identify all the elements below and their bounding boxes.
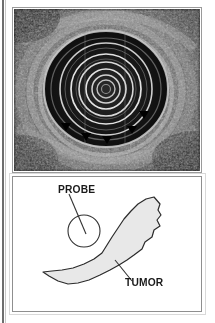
schematic-panel-frame bbox=[12, 176, 202, 312]
page-gutter-rule bbox=[2, 0, 4, 323]
probe-leader-line bbox=[69, 194, 86, 234]
probe-circle bbox=[68, 215, 100, 247]
tumor-shape bbox=[43, 197, 161, 284]
tumor-label: TUMOR bbox=[125, 276, 163, 288]
page-gutter-rule-light bbox=[5, 0, 6, 323]
ultrasound-image bbox=[14, 9, 200, 171]
probe-label: PROBE bbox=[58, 183, 95, 195]
figure-container: PROBE TUMOR bbox=[0, 0, 215, 323]
schematic-drawing bbox=[13, 177, 201, 311]
ultrasound-content bbox=[14, 9, 200, 171]
